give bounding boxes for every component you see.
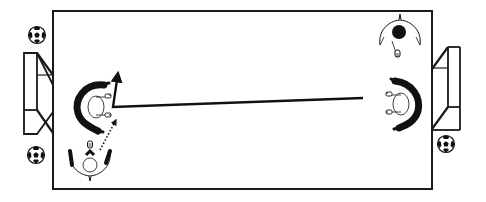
soccer-ball-icon bbox=[29, 27, 46, 44]
right-goal bbox=[432, 47, 460, 130]
diagram-canvas bbox=[0, 0, 486, 202]
soccer-ball-icon bbox=[438, 136, 455, 153]
drill-diagram: Soccer passing drill bbox=[0, 0, 486, 202]
field-boundary bbox=[53, 11, 432, 189]
left-goal bbox=[24, 53, 53, 134]
soccer-ball-icon bbox=[28, 147, 45, 164]
